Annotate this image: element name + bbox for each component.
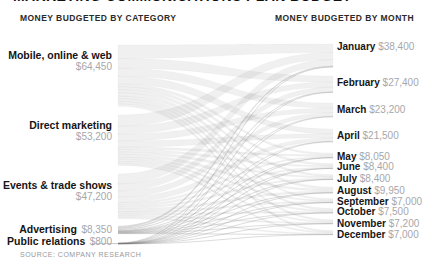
month-value: $7,000	[388, 229, 419, 240]
month-value: $21,500	[363, 130, 399, 141]
category-direct-marketing: Direct marketing $53,200	[0, 120, 112, 142]
month-label: October	[337, 206, 375, 217]
month-value: $7,200	[389, 218, 420, 229]
month-value: $7,500	[378, 206, 409, 217]
month-row-february: February $27,400	[337, 78, 419, 88]
month-row-november: November $7,200	[337, 219, 419, 229]
month-value: $38,400	[378, 41, 414, 52]
month-label: June	[337, 161, 360, 172]
month-label: August	[337, 185, 371, 196]
category-label: Direct marketing	[0, 120, 112, 131]
source-note: SOURCE: COMPANY RESEARCH	[20, 251, 141, 258]
month-value: $8,400	[363, 161, 394, 172]
category-label: Mobile, online & web	[0, 50, 112, 61]
month-label: November	[337, 218, 386, 229]
budget-sankey-page: MARKETING COMMUNICATIONS PLAN BUDGET MON…	[0, 0, 427, 270]
month-row-october: October $7,500	[337, 207, 409, 217]
month-label: July	[337, 173, 357, 184]
category-label: Events & trade shows	[0, 180, 112, 191]
month-label: December	[337, 229, 385, 240]
category-value: $64,450	[0, 61, 112, 72]
month-value: $27,400	[383, 77, 419, 88]
category-public-relations: Public relations $800	[0, 234, 112, 247]
month-row-april: April $21,500	[337, 131, 399, 141]
month-label: April	[337, 130, 360, 141]
category-value: $800	[90, 236, 112, 247]
month-value: $9,950	[374, 185, 405, 196]
month-row-march: March $23,200	[337, 105, 405, 115]
month-label: January	[337, 41, 375, 52]
category-value: $53,200	[0, 131, 112, 142]
category-value: $47,200	[0, 191, 112, 202]
month-value: $23,200	[369, 104, 405, 115]
month-value: $8,400	[360, 173, 391, 184]
month-row-january: January $38,400	[337, 42, 414, 52]
month-row-december: December $7,000	[337, 230, 419, 240]
month-row-august: August $9,950	[337, 186, 405, 196]
month-label: March	[337, 104, 366, 115]
month-row-june: June $8,400	[337, 162, 394, 172]
category-label: Public relations	[7, 235, 85, 247]
category-events-trade-shows: Events & trade shows $47,200	[0, 180, 112, 202]
category-mobile-online-web: Mobile, online & web $64,450	[0, 50, 112, 72]
month-row-july: July $8,400	[337, 174, 390, 184]
month-label: February	[337, 77, 380, 88]
